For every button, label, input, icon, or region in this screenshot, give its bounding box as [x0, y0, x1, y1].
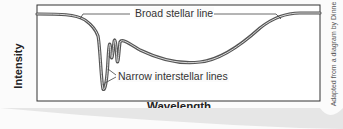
plot-frame	[37, 5, 320, 101]
credit-label: Adapted from a diagram by Dinne	[330, 2, 337, 107]
credit-text: Adapted from a diagram by Dinne	[326, 2, 340, 106]
y-axis-label: Intensity	[12, 36, 24, 96]
broad-stellar-line-label: Broad stellar line	[134, 7, 214, 19]
page-curl-shadow	[0, 108, 343, 129]
narrow-interstellar-lines-label: Narrow interstellar lines	[117, 70, 229, 82]
